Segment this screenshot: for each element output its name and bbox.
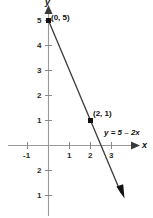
x-axis-label: x	[142, 141, 147, 150]
y-tick-label-neg1: 2	[37, 167, 41, 175]
point-label-0-5: (0, 5)	[51, 14, 70, 22]
point-label-2-1: (2, 1)	[93, 110, 112, 118]
x-tick-label-3: 3	[109, 152, 113, 160]
x-axis-arrowhead	[131, 142, 140, 150]
x-tick-label-2: 2	[88, 152, 92, 160]
y-tick-label-2: 2	[37, 92, 41, 100]
graph-canvas	[0, 0, 153, 218]
y-axis-label: y	[45, 0, 50, 7]
x-tick-label-1: 1	[67, 152, 71, 160]
y-tick-label-4: 4	[37, 42, 41, 50]
function-line	[49, 21, 122, 194]
y-tick-label-3: 3	[37, 67, 41, 75]
data-point-marker-2-1	[88, 118, 93, 123]
y-tick-label-neg2: 1	[37, 192, 41, 200]
function-line-arrowhead	[116, 184, 124, 198]
coordinate-plane-figure: y x 5 4 3 2 1 2 1 -1 1 2 3 (0, 5) (2, 1)…	[0, 0, 153, 218]
equation-label: y = 5 – 2x	[104, 129, 140, 137]
x-tick-label-neg1: -1	[23, 152, 30, 160]
y-tick-label-5: 5	[37, 17, 41, 25]
y-tick-label-1: 1	[37, 117, 41, 125]
